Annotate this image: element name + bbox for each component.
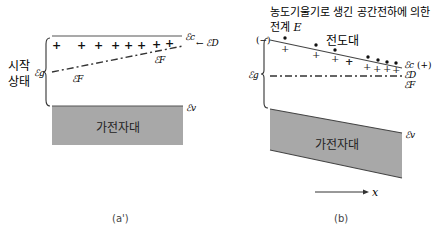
donor-ions: + + + + + + + +: [52, 37, 174, 52]
svg-text:+: +: [383, 63, 391, 74]
conduction-label-b: ℰc: [404, 60, 414, 70]
band-diagram: 시작 상태 ℰg ℰc ← ℰD + + + + + + + + ℰF ℰF ℰ…: [0, 0, 437, 239]
svg-text:+: +: [392, 64, 400, 75]
panel-b-title-line2: 전계 E: [270, 21, 302, 34]
svg-text:+: +: [373, 63, 381, 74]
valence-label-b: ℰv: [405, 130, 415, 140]
donor-ion: +: [52, 39, 61, 52]
donor-ion: +: [152, 38, 161, 51]
plus-sign: (+): [417, 60, 432, 70]
svg-text:+: +: [345, 56, 353, 67]
svg-text:+: +: [331, 53, 339, 64]
valence-band-text: 가전자대: [96, 121, 140, 135]
bandgap-label: ℰg: [34, 68, 45, 78]
panel-a: 시작 상태 ℰg ℰc ← ℰD + + + + + + + + ℰF ℰF ℰ…: [8, 32, 219, 224]
bandgap-brace: [261, 38, 268, 108]
state-label-line1: 시작: [8, 59, 30, 73]
x-axis-label: x: [372, 186, 379, 199]
state-label-line2: 상태: [8, 75, 30, 89]
conduction-label: ℰc: [185, 32, 195, 42]
donor-ion: +: [111, 39, 120, 52]
caption-a: (a'): [112, 213, 129, 224]
bandgap-label-b: ℰg: [248, 70, 259, 80]
panel-b-title-line1: 농도기울기로 생긴 공간전하에 의한: [270, 5, 431, 19]
fermi-label-right: ℰF: [154, 55, 166, 65]
caption-b: (b): [334, 213, 348, 224]
conduction-band-text: 전도대: [326, 34, 359, 48]
svg-text:+: +: [281, 43, 289, 54]
arrow-head-icon: [363, 190, 369, 195]
valence-band-text-b: 가전자대: [315, 138, 359, 152]
donor-ion: +: [124, 39, 133, 52]
donor-label: ← ℰD: [196, 38, 219, 48]
fermi-label-left: ℰF: [72, 74, 84, 84]
donor-ion: +: [94, 39, 103, 52]
donor-ion: +: [77, 39, 86, 52]
minus-sign: (−): [256, 35, 271, 45]
fermi-label-b: ℰF: [404, 80, 416, 90]
valence-label: ℰv: [186, 103, 196, 113]
svg-text:+: +: [363, 61, 371, 72]
svg-text:+: +: [312, 49, 320, 60]
bandgap-brace: [43, 38, 50, 106]
donor-label-b: ℰD: [404, 70, 416, 80]
donor-ion: +: [137, 39, 146, 52]
panel-b: 농도기울기로 생긴 공간전하에 의한 전계 E (−) ℰg 전도대 ℰc (+…: [248, 5, 432, 224]
